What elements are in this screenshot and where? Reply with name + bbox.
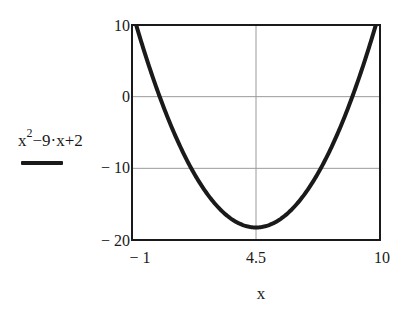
y-tick-minus-10: − 10 [90,160,130,176]
x-axis-title: x [241,284,281,304]
y-tick-0: 0 [90,89,130,105]
legend-rest: −9·x+2 [33,131,83,150]
x-tick-4-5: 4.5 [226,250,286,266]
function-plot: 10 0 − 10 − 20 − 1 4.5 10 x x2−9·x+2 [0,0,411,316]
y-tick-minus-20: − 20 [90,233,130,249]
legend-label: x2−9·x+2 [18,128,83,151]
x-tick-10: 10 [352,250,411,266]
x-tick-minus-1: − 1 [110,250,170,266]
legend-base: x [18,131,27,150]
legend-line-swatch [21,161,63,165]
y-tick-10: 10 [90,18,130,34]
legend: x2−9·x+2 [18,128,83,165]
legend-exponent: 2 [27,126,33,140]
